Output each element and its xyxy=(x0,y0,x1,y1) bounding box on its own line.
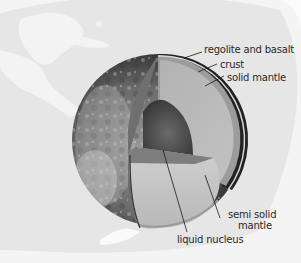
label-liquid-nucleus: liquid nucleus xyxy=(177,234,243,245)
label-crust: crust xyxy=(220,59,244,70)
diagram-stage: regolite and basalt crust solid mantle s… xyxy=(0,0,301,263)
label-mantle: mantle xyxy=(238,220,272,231)
label-semi-solid: semi solid xyxy=(228,209,276,220)
label-regolite-and-basalt: regolite and basalt xyxy=(204,44,294,55)
label-solid-mantle: solid mantle xyxy=(227,72,286,83)
